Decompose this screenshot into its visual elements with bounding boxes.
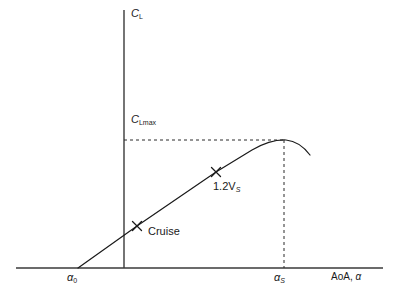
cruise-marker-icon [133, 222, 142, 231]
plot-canvas [0, 0, 398, 299]
y-axis-label-subscript: L [139, 13, 143, 20]
v12-annotation-text: 1.2V [213, 180, 236, 192]
lift-curve-figure: CL CLmax α0 αS AoA, α Cruise 1.2VS [0, 0, 398, 299]
alpha-stall-label: αS [274, 272, 285, 283]
cl-max-label: CLmax [131, 114, 156, 125]
alpha-zero-label: α0 [67, 272, 77, 283]
cruise-annotation-label: Cruise [148, 226, 180, 237]
y-axis-label: CL [131, 8, 143, 19]
x-axis-label-symbol: α [355, 271, 361, 282]
v12-annotation-subscript: S [236, 186, 241, 193]
cl-max-subscript: Lmax [139, 119, 156, 126]
x-axis-label-text: AoA, [331, 271, 355, 282]
cl-max-symbol: C [131, 113, 139, 125]
alpha-zero-subscript: 0 [73, 277, 77, 284]
v12-marker-icon [212, 168, 221, 177]
x-axis-label: AoA, α [331, 272, 361, 282]
alpha-stall-subscript: S [280, 277, 285, 284]
y-axis-label-symbol: C [131, 7, 139, 19]
v12-annotation-label: 1.2VS [213, 181, 240, 192]
lift-curve-path [78, 140, 310, 268]
